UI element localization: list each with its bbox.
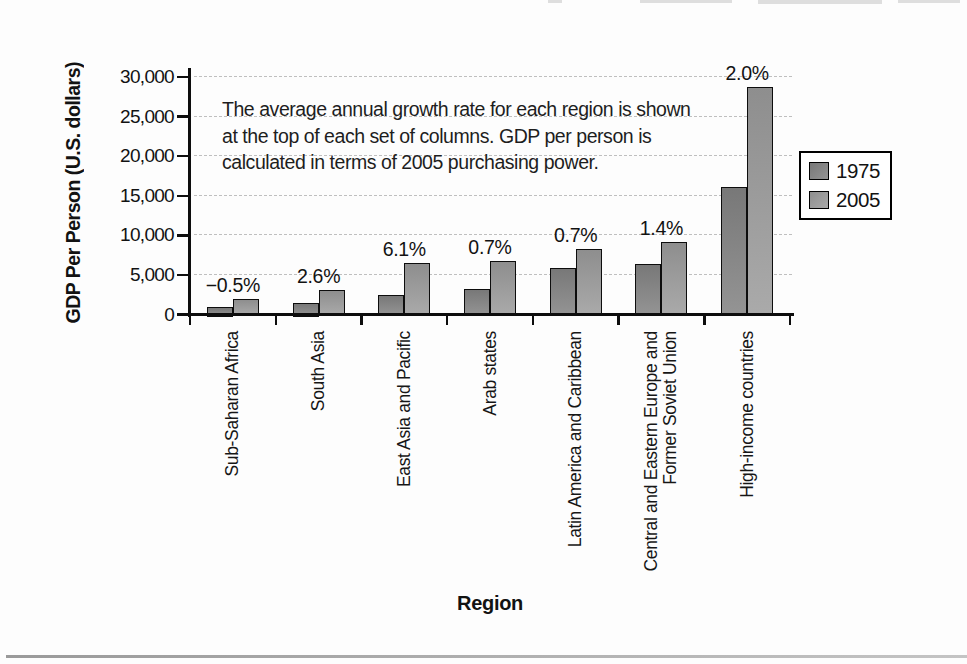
chart-annotation: The average annual growth rate for each … (222, 96, 690, 176)
growth-rate-label: −0.5% (186, 274, 280, 297)
growth-rate-label: 1.4% (615, 217, 709, 240)
bar-chart-figure: GDP Per Person (U.S. dollars) 05,00010,0… (0, 0, 967, 664)
y-tick-label: 20,000 (88, 145, 174, 167)
bar-1975 (550, 268, 576, 317)
bar-1975 (721, 187, 747, 316)
growth-rate-label: 2.0% (700, 62, 794, 85)
page-divider-rule (6, 655, 967, 658)
bar-2005 (576, 249, 602, 317)
legend-label-1975: 1975 (836, 159, 880, 183)
growth-rate-label: 0.7% (529, 224, 623, 247)
legend-swatch-1975 (809, 162, 829, 180)
x-category-label: Latin America and Caribbean (566, 331, 585, 547)
annotation-line-1: The average annual growth rate for each … (222, 96, 690, 123)
y-tick-label: 30,000 (88, 66, 174, 88)
y-tick-label: 15,000 (88, 185, 174, 207)
y-axis-line (188, 68, 191, 317)
growth-rate-label: 6.1% (357, 238, 451, 261)
x-category-label: East Asia and Pacific (395, 331, 414, 487)
annotation-line-2: at the top of each set of columns. GDP p… (222, 123, 690, 150)
x-category-label: Sub-Saharan Africa (223, 331, 242, 476)
x-category-label: High-income countries (738, 331, 757, 498)
legend-row-2005: 2005 (809, 188, 880, 212)
legend: 1975 2005 (799, 151, 892, 220)
legend-row-1975: 1975 (809, 159, 880, 183)
scan-artifact (640, 0, 732, 3)
bar-2005 (490, 261, 516, 316)
growth-rate-label: 2.6% (272, 265, 366, 288)
y-tick-label: 10,000 (88, 224, 174, 246)
y-tick-label: 0 (88, 304, 174, 326)
legend-label-2005: 2005 (836, 188, 880, 212)
scan-artifact (758, 0, 882, 4)
x-category-label: South Asia (309, 331, 328, 411)
growth-rate-label: 0.7% (443, 236, 537, 259)
y-tick-label: 5,000 (88, 264, 174, 286)
scan-artifact (898, 0, 960, 3)
bar-2005 (747, 87, 773, 316)
bar-1975 (635, 264, 661, 317)
y-axis-title-wrap: GDP Per Person (U.S. dollars) (54, 56, 92, 330)
x-axis-line (188, 313, 794, 316)
x-category-label: Central and Eastern Europe and Former So… (642, 331, 680, 572)
bar-2005 (404, 263, 430, 316)
y-axis-title: GDP Per Person (U.S. dollars) (62, 62, 85, 323)
legend-swatch-2005 (809, 191, 829, 209)
bar-2005 (661, 242, 687, 317)
y-tick-label: 25,000 (88, 106, 174, 128)
scan-artifact (548, 0, 562, 3)
annotation-line-3: calculated in terms of 2005 purchasing p… (222, 149, 690, 176)
x-axis-title: Region (190, 592, 790, 615)
x-category-label: Arab states (481, 331, 500, 416)
gridline (194, 195, 792, 196)
